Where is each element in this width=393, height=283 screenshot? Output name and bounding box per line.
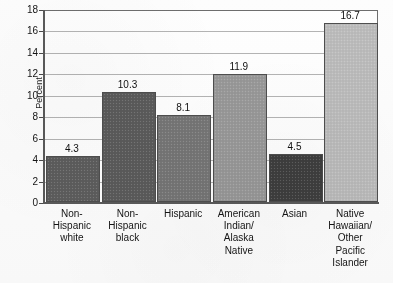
y-tick-label: 16 (18, 26, 38, 36)
bar-value-label: 11.9 (204, 62, 274, 72)
bar (324, 23, 378, 202)
bar (46, 156, 100, 202)
bar (213, 74, 267, 202)
category-label-line: Native (314, 208, 386, 220)
bar (269, 154, 323, 202)
y-tick-label: 4 (18, 155, 38, 165)
bar-value-label: 10.3 (93, 80, 163, 90)
y-tick-label: 14 (18, 48, 38, 58)
category-label-line: Alaska (203, 232, 275, 244)
bar-value-label: 16.7 (315, 11, 385, 21)
category-label-line: Pacific (314, 245, 386, 257)
x-axis-category-labels: Non-HispanicwhiteNon-HispanicblackHispan… (44, 208, 378, 283)
y-tick-label: 8 (18, 112, 38, 122)
y-axis-line (43, 10, 45, 204)
bar-value-label: 8.1 (148, 103, 218, 113)
y-tick-label: 18 (18, 5, 38, 15)
bar-value-label: 4.3 (37, 144, 107, 154)
bar (157, 115, 211, 202)
bar-chart: Percent 181614121086420 4.310.38.111.94.… (0, 0, 393, 283)
y-tick-label: 12 (18, 69, 38, 79)
category-label-line: Indian/ (203, 220, 275, 232)
category-label-line: Other (314, 232, 386, 244)
category-label-line: Hispanic (92, 220, 164, 232)
x-axis-line (44, 202, 379, 204)
category-label-line: Islander (314, 257, 386, 269)
category-label-line: Hawaiian/ (314, 220, 386, 232)
y-tick-label: 2 (18, 177, 38, 187)
y-tick-label: 6 (18, 134, 38, 144)
category-label-line: Native (203, 245, 275, 257)
bar-value-label: 4.5 (260, 142, 330, 152)
category-label-line: black (92, 232, 164, 244)
y-tick-label: 10 (18, 91, 38, 101)
y-tick-label: 0 (18, 198, 38, 208)
category-label: NativeHawaiian/OtherPacificIslander (314, 208, 386, 269)
